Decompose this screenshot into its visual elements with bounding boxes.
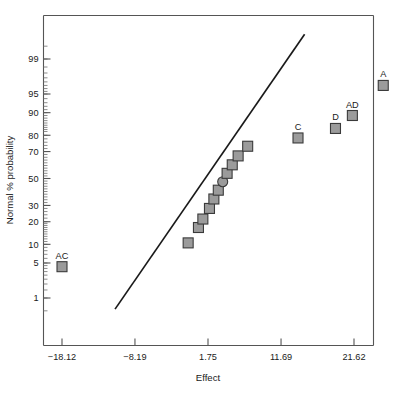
data-point-square[interactable] bbox=[347, 111, 357, 121]
chart-canvas: 99959080705030201051 −18.12−8.191.7511.6… bbox=[0, 0, 394, 394]
y-tick-label: 10 bbox=[28, 240, 38, 250]
x-tick-label: 11.69 bbox=[270, 352, 292, 362]
x-axis-title: Effect bbox=[196, 372, 221, 383]
data-point-label: AC bbox=[56, 251, 69, 261]
y-tick-label: 30 bbox=[28, 201, 38, 211]
y-tick-label: 20 bbox=[28, 217, 38, 227]
data-point-square[interactable] bbox=[233, 151, 243, 161]
plot-frame bbox=[44, 16, 374, 346]
y-axis-tick-labels: 99959080705030201051 bbox=[28, 54, 38, 303]
data-point-label: AD bbox=[346, 100, 359, 110]
y-tick-label: 99 bbox=[28, 54, 38, 64]
data-point-square[interactable] bbox=[293, 133, 303, 143]
data-point-square[interactable] bbox=[243, 141, 253, 151]
data-point-square[interactable] bbox=[330, 123, 340, 133]
y-tick-label: 50 bbox=[28, 174, 38, 184]
x-axis-major-ticks bbox=[62, 339, 354, 346]
y-tick-label: 90 bbox=[28, 108, 38, 118]
y-axis-title: Normal % probability bbox=[4, 136, 15, 225]
y-tick-label: 80 bbox=[28, 131, 38, 141]
reference-line bbox=[115, 34, 305, 309]
y-tick-label: 1 bbox=[33, 293, 38, 303]
data-point-label: C bbox=[295, 122, 302, 132]
x-tick-label: −8.19 bbox=[123, 352, 146, 362]
x-tick-label: 21.62 bbox=[343, 352, 366, 362]
x-tick-label: 1.75 bbox=[199, 352, 217, 362]
x-axis-tick-labels: −18.12−8.191.7511.6921.62 bbox=[48, 352, 366, 362]
y-tick-label: 5 bbox=[33, 258, 38, 268]
data-point-label: D bbox=[332, 112, 339, 122]
data-point-square[interactable] bbox=[183, 238, 193, 248]
y-tick-label: 95 bbox=[28, 89, 38, 99]
data-point-markers bbox=[57, 80, 388, 271]
data-point-square[interactable] bbox=[378, 80, 388, 90]
data-point-square[interactable] bbox=[204, 203, 214, 213]
data-point-square[interactable] bbox=[198, 214, 208, 224]
data-point-labels: ACCDADA bbox=[56, 69, 388, 260]
x-tick-label: −18.12 bbox=[48, 352, 76, 362]
y-tick-label: 70 bbox=[28, 147, 38, 157]
data-point-square[interactable] bbox=[57, 262, 67, 272]
normal-probability-plot: 99959080705030201051 −18.12−8.191.7511.6… bbox=[0, 0, 394, 394]
y-axis-major-ticks bbox=[44, 59, 51, 298]
data-point-label: A bbox=[380, 69, 387, 79]
reference-line-path bbox=[115, 34, 305, 309]
